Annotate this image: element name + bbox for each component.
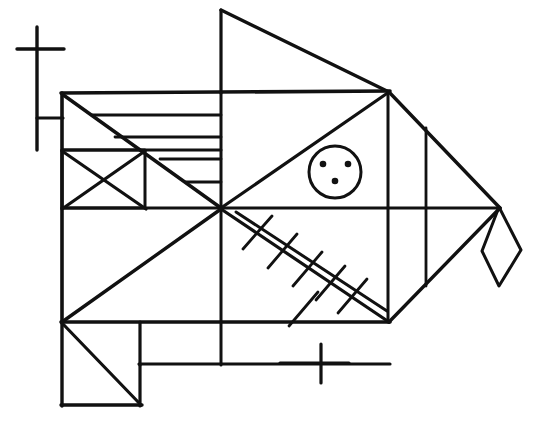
- foot-box-diagonal: [62, 323, 141, 405]
- bone-tick-2: [268, 234, 297, 268]
- dorsal-fin-group: [221, 10, 389, 93]
- bone-spine: [236, 212, 387, 311]
- mast-cross-group: [17, 27, 64, 150]
- eye-dot-bottom: [332, 178, 339, 185]
- fish-line-drawing: [0, 0, 538, 425]
- foot-box-group: [61, 322, 142, 406]
- eye-dot-right: [345, 161, 352, 168]
- bottom-cross-group: [280, 344, 349, 383]
- drawing-canvas: [0, 0, 538, 425]
- bone-tick-4: [316, 266, 345, 300]
- gill-lower-diagonal: [221, 209, 389, 322]
- body-top-edge: [61, 91, 390, 93]
- eye-group: [309, 146, 361, 198]
- tail-lower-edge: [389, 208, 500, 322]
- x-box-group: [62, 150, 146, 209]
- dorsal-slanted-edge: [221, 10, 389, 92]
- belly-diagonal: [62, 209, 221, 322]
- tail-upper-edge: [389, 92, 500, 208]
- eye-dot-left: [320, 161, 327, 168]
- gill-upper-diagonal: [221, 92, 389, 208]
- eye-circle: [309, 146, 361, 198]
